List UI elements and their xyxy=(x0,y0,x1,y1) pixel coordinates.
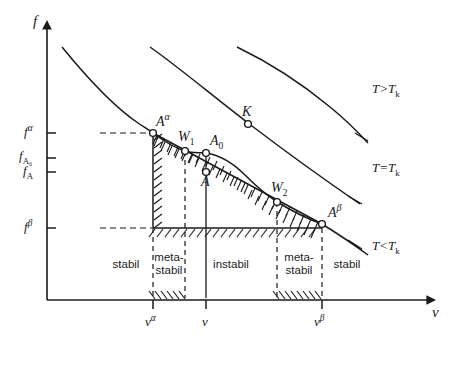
x-tick-sup-v-alpha: α xyxy=(151,313,156,323)
y-tick-sub-f-a: A xyxy=(27,171,33,181)
curve-label-T-above-Tk: T>Tk xyxy=(372,82,400,98)
marker-A0 xyxy=(203,150,210,157)
point-sup-A-beta: β xyxy=(337,202,342,213)
curve-label-text-T-above-Tk: T>T xyxy=(372,81,395,96)
curve-label-sub-T-above-Tk: k xyxy=(395,89,399,99)
point-label-A-beta: Aβ xyxy=(328,203,342,220)
region-label-stabil-right: stabil xyxy=(322,258,372,271)
point-base-A: A xyxy=(201,174,210,189)
point-label-A0: A0 xyxy=(210,134,223,151)
curve-label-sub-T-equals-Tk: k xyxy=(395,168,399,178)
curve-T-equals-Tk xyxy=(150,47,360,204)
y-tick-sup-f-alpha: α xyxy=(28,123,33,133)
point-base-A-alpha: A xyxy=(156,114,165,129)
marker-A-beta xyxy=(319,221,326,228)
curve-label-sub-T-below-Tk: k xyxy=(395,246,399,256)
curve-label-T-equals-Tk: T=Tk xyxy=(372,161,400,177)
point-base-A0: A xyxy=(210,133,219,148)
marker-W2 xyxy=(274,199,281,206)
x-tick-label-v-alpha: vα xyxy=(145,314,156,328)
x-axis-ticks xyxy=(153,300,322,309)
point-sub-W1: 1 xyxy=(190,137,195,147)
point-base-W2: W xyxy=(271,180,283,195)
marker-W1 xyxy=(182,148,189,155)
x-tick-base-v: v xyxy=(202,314,208,329)
region-label-metastabil-left: meta- stabil xyxy=(141,251,197,277)
point-base-K: K xyxy=(242,104,251,119)
point-base-A-beta: A xyxy=(328,205,337,220)
curve-T-below-Tk-left xyxy=(62,47,153,133)
y-axis-ticks xyxy=(47,133,56,228)
curve-label-text-T-equals-Tk: T=T xyxy=(372,160,395,175)
point-sup-A-alpha: α xyxy=(165,111,170,122)
y-tick-label-f-alpha: fα xyxy=(24,124,33,138)
curve-label-leaders xyxy=(348,133,368,249)
y-axis-label: f xyxy=(33,14,37,29)
diagram-canvas xyxy=(0,0,455,366)
point-label-A: A xyxy=(201,175,210,189)
hatching-x-axis-bands xyxy=(149,291,321,299)
x-tick-sup-v-beta: β xyxy=(320,313,325,323)
y-tick-sup-f-beta: β xyxy=(28,218,33,228)
marker-K xyxy=(245,121,252,128)
curve-T-below-Tk-right xyxy=(322,224,368,255)
boundary-f-beta xyxy=(149,228,322,237)
curve-label-text-T-below-Tk: T<T xyxy=(372,238,395,253)
hatching-v-alpha xyxy=(154,134,162,228)
point-label-K: K xyxy=(242,105,251,119)
horizontal-guide-lines xyxy=(100,133,152,228)
point-sub-A0: 0 xyxy=(219,141,224,151)
region-label-instabil: instabil xyxy=(201,258,261,271)
y-tick-label-f-a: fA xyxy=(23,164,33,180)
x-tick-label-v-beta: vβ xyxy=(314,314,324,328)
point-base-W1: W xyxy=(178,129,190,144)
x-tick-label-v: v xyxy=(202,314,208,328)
region-label-metastabil-right: meta- stabil xyxy=(271,251,327,277)
point-label-W2: W2 xyxy=(271,181,287,198)
curve-label-T-below-Tk: T<Tk xyxy=(372,239,400,255)
hatching-f-beta xyxy=(149,229,315,237)
free-energy-volume-diagram: f v fα fA₀ fA fβ vα v vβ Aα W1 A0 A W2 A… xyxy=(0,0,455,366)
marker-A-alpha xyxy=(150,130,157,137)
hatching-s-curve-upper xyxy=(154,137,315,238)
point-label-W1: W1 xyxy=(178,130,194,147)
y-tick-label-f-beta: fβ xyxy=(24,219,32,233)
x-axis-label: v xyxy=(432,305,439,320)
point-label-A-alpha: Aα xyxy=(156,112,170,129)
point-sub-W2: 2 xyxy=(283,188,288,198)
